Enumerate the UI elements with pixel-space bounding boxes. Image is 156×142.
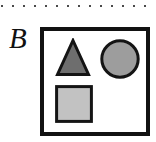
figure-panel: B (0, 0, 156, 142)
rule-dot (111, 5, 113, 7)
rule-dot (144, 5, 146, 7)
rule-dot (12, 5, 14, 7)
scene-box (40, 27, 150, 136)
rule-dot (133, 5, 135, 7)
rule-dot (45, 5, 47, 7)
rule-dot (67, 5, 69, 7)
circle-icon (100, 39, 140, 79)
triangle-icon (55, 38, 91, 77)
panel-label: B (9, 22, 35, 54)
rule-dot (23, 5, 25, 7)
rule-dot (89, 5, 91, 7)
square-shape (55, 85, 93, 123)
rule-dot (122, 5, 124, 7)
rule-dot (1, 5, 3, 7)
rule-dot (78, 5, 80, 7)
rule-dot (100, 5, 102, 7)
square-icon (55, 85, 93, 123)
circle-shape (100, 39, 140, 79)
rule-dot (34, 5, 36, 7)
dotted-separator-rule (0, 5, 156, 10)
triangle-shape (55, 38, 91, 77)
rule-dot (56, 5, 58, 7)
